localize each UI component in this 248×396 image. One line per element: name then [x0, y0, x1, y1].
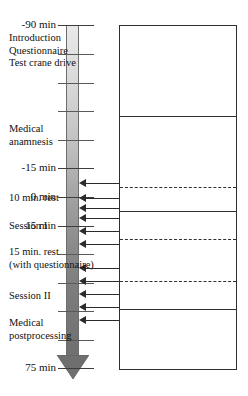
axis-tick--30	[58, 140, 94, 141]
connector-arrow-1	[79, 179, 86, 187]
axis-tick-45	[58, 283, 94, 284]
connector-arrow-11	[79, 316, 86, 324]
axis-tick-60	[58, 311, 94, 312]
phase-label-medical-postprocessing: Medical postprocessing	[9, 317, 71, 342]
axis-label--15min: -15 min	[2, 162, 56, 173]
axis-label--90min: -90 min	[2, 19, 56, 30]
phase-divider-introduction-medical	[120, 116, 236, 117]
connector-arrow-4	[79, 214, 86, 222]
axis-tick--60	[58, 83, 94, 84]
phase-label-session-2: Session II	[9, 290, 51, 303]
phase-divider-rest15-session2	[120, 281, 236, 282]
phase-label-introduction: Introduction Questionnaire Test crane dr…	[9, 32, 76, 70]
time-arrow-edge-left	[66, 25, 67, 358]
axis-tick-end	[58, 368, 94, 369]
connector-arrow-3	[79, 204, 86, 212]
phase-label-session-1: Session I	[9, 220, 47, 233]
phase-divider-session2-postprocessing	[120, 309, 236, 310]
connector-arrow-8	[79, 277, 86, 285]
axis-tick--15	[58, 168, 94, 169]
axis-tick--45	[58, 111, 94, 112]
phase-panel	[119, 25, 237, 370]
connector-arrow-5	[79, 227, 86, 235]
phase-divider-rest10-session1	[120, 211, 236, 212]
phase-divider-session1-rest15	[120, 239, 236, 240]
connector-arrow-10	[79, 303, 86, 311]
phase-divider-medical-rest10	[120, 187, 236, 188]
phase-label-rest-15min: 15 min. rest (with questionnaire)	[9, 246, 94, 271]
axis-tick--90	[58, 25, 94, 26]
protocol-timeline-figure: -90 min -15 min 0 min 15 min 75 min Intr…	[0, 0, 248, 396]
connector-arrow-9	[79, 290, 86, 298]
clipped-caption-remnant	[0, 392, 248, 396]
axis-tick-15	[58, 226, 94, 227]
connector-arrow-2	[79, 194, 86, 202]
phase-label-rest-10min: 10 min. rest	[9, 192, 59, 205]
phase-label-medical-anamnesis: Medical anamnesis	[9, 123, 53, 148]
axis-label-75min: 75 min	[2, 362, 56, 373]
